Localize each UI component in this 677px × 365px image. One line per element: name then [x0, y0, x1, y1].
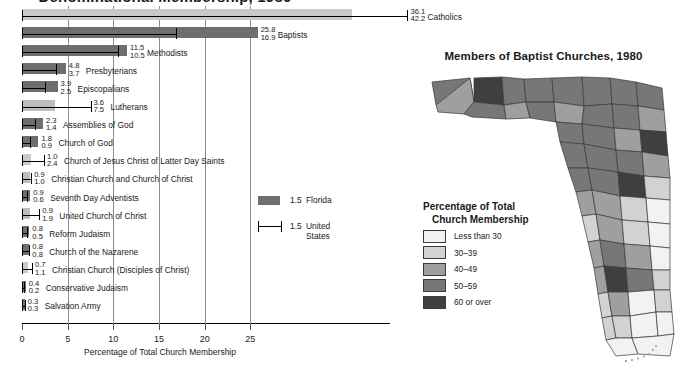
- united-states-marker: [35, 119, 36, 130]
- x-tick: [113, 324, 114, 330]
- bar-value-labels: 0.91.0: [34, 171, 45, 186]
- united-states-value: 3.7: [69, 70, 80, 77]
- united-states-marker: [30, 137, 31, 148]
- county-area: [504, 102, 530, 119]
- map-legend-heading-line2: Church Membership: [423, 213, 529, 226]
- united-states-origin-cap: [22, 282, 23, 293]
- county-area: [502, 77, 526, 105]
- bar-group: 1.02.4Church of Jesus Christ of Latter D…: [22, 153, 390, 171]
- denomination-label: Church of Jesus Christ of Latter Day Sai…: [64, 156, 225, 166]
- florida-key-label: Florida: [306, 195, 332, 205]
- bar-value-labels: 11.510.5: [130, 44, 145, 59]
- bar-value-labels: 2.31.4: [46, 117, 57, 132]
- florida-key-value: 1.5: [290, 195, 302, 205]
- united-states-value: 1.9: [42, 215, 53, 222]
- united-states-value: 7.5: [94, 106, 105, 113]
- county-area: [638, 106, 666, 132]
- united-states-value: 0.8: [32, 251, 43, 258]
- united-states-marker: [25, 300, 26, 311]
- county-area: [622, 220, 650, 246]
- county-area: [642, 152, 670, 178]
- x-tick: [250, 324, 251, 330]
- map-legend-row: 60 or over: [423, 296, 529, 309]
- united-states-origin-cap: [22, 191, 23, 202]
- united-states-marker: [176, 28, 177, 39]
- united-states-value: 10.5: [130, 52, 145, 59]
- florida-bar: [22, 208, 30, 219]
- united-states-value: 0.9: [41, 142, 52, 149]
- florida-bar: [22, 63, 66, 74]
- x-tick: [159, 324, 160, 330]
- chart-plot-area: 0510152025 36.142.2Catholics25.816.9Bapt…: [22, 6, 390, 324]
- united-states-origin-cap: [22, 82, 23, 93]
- county-area: [474, 77, 504, 105]
- map-legend-swatch: [423, 279, 446, 292]
- bar-value-labels: 0.80.8: [32, 243, 43, 258]
- x-tick-label: 0: [19, 334, 24, 344]
- united-states-marker: [27, 191, 28, 202]
- county-area: [636, 82, 664, 110]
- united-states-marker: [118, 46, 119, 57]
- united-states-rule: [22, 34, 176, 35]
- bar-group: 0.91.0Christian Church and Church of Chr…: [22, 171, 390, 189]
- map-legend-label: 40–49: [454, 264, 477, 274]
- united-states-origin-cap: [22, 245, 23, 256]
- bar-group: 0.80.8Church of the Nazarene: [22, 243, 390, 261]
- united-states-whisker-symbol: [258, 221, 282, 232]
- denomination-label: Presbyterians: [86, 66, 137, 76]
- united-states-marker: [56, 64, 57, 75]
- united-states-origin-cap: [22, 101, 23, 112]
- united-states-value: 1.4: [46, 124, 57, 131]
- denomination-label: Lutherans: [111, 102, 148, 112]
- united-states-key-label: United States: [306, 221, 330, 241]
- map-legend-heading-line1: Percentage of Total: [423, 201, 515, 212]
- bar-group: 4.83.7Presbyterians: [22, 62, 390, 80]
- bar-group: 0.90.6Seventh Day Adventists: [22, 189, 390, 207]
- denomination-label: Baptists: [278, 30, 308, 40]
- denomination-label: Reform Judaism: [49, 229, 110, 239]
- united-states-origin-cap: [22, 137, 23, 148]
- united-states-rule: [22, 161, 44, 162]
- chart-title: Denominational Membership, 1980: [0, 0, 330, 5]
- united-states-marker: [44, 155, 45, 166]
- united-states-origin-cap: [22, 155, 23, 166]
- united-states-marker: [91, 101, 92, 112]
- united-states-marker: [24, 282, 25, 293]
- denomination-label: Church of God: [58, 138, 112, 148]
- bar-group: 11.510.5Methodists: [22, 44, 390, 62]
- county-area: [604, 266, 628, 292]
- bar-value-labels: 0.91.9: [42, 207, 53, 222]
- bar-group: 25.816.9Baptists: [22, 26, 390, 44]
- county-area: [608, 292, 630, 316]
- denomination-label: United Church of Christ: [59, 211, 146, 221]
- bar-group: 3.67.5Lutherans: [22, 99, 390, 117]
- x-tick-label: 20: [200, 334, 210, 344]
- county-area: [556, 122, 584, 144]
- united-states-rule: [22, 125, 35, 126]
- county-area: [610, 78, 638, 106]
- county-area: [526, 102, 556, 122]
- bar-group: 1.80.9Church of God: [22, 135, 390, 153]
- bar-group: 0.71.1Christian Church (Disciples of Chr…: [22, 261, 390, 279]
- united-states-rule: [22, 251, 29, 252]
- county-area: [552, 77, 584, 106]
- united-states-origin-cap: [22, 28, 23, 39]
- bar-value-labels: 1.80.9: [41, 135, 52, 150]
- map-legend-label: Less than 30: [454, 231, 502, 241]
- denomination-label: Salvation Army: [45, 301, 101, 311]
- denomination-label: Seventh Day Adventists: [50, 193, 138, 203]
- x-axis-title: Percentage of Total Church Membership: [10, 347, 310, 357]
- bar-group: 0.40.2Conservative Judaism: [22, 280, 390, 298]
- united-states-origin-cap: [22, 46, 23, 57]
- united-states-rule: [22, 88, 45, 89]
- county-area: [612, 104, 640, 130]
- denomination-label: Assemblies of God: [63, 120, 133, 130]
- county-area: [644, 176, 670, 200]
- denomination-label: Conservative Judaism: [46, 283, 128, 293]
- florida-bar: [22, 27, 258, 38]
- united-states-rule: [22, 269, 32, 270]
- bar-value-labels: 0.80.5: [32, 225, 43, 240]
- united-states-rule: [22, 52, 118, 53]
- united-states-origin-cap: [22, 227, 23, 238]
- united-states-value: 2.4: [47, 160, 58, 167]
